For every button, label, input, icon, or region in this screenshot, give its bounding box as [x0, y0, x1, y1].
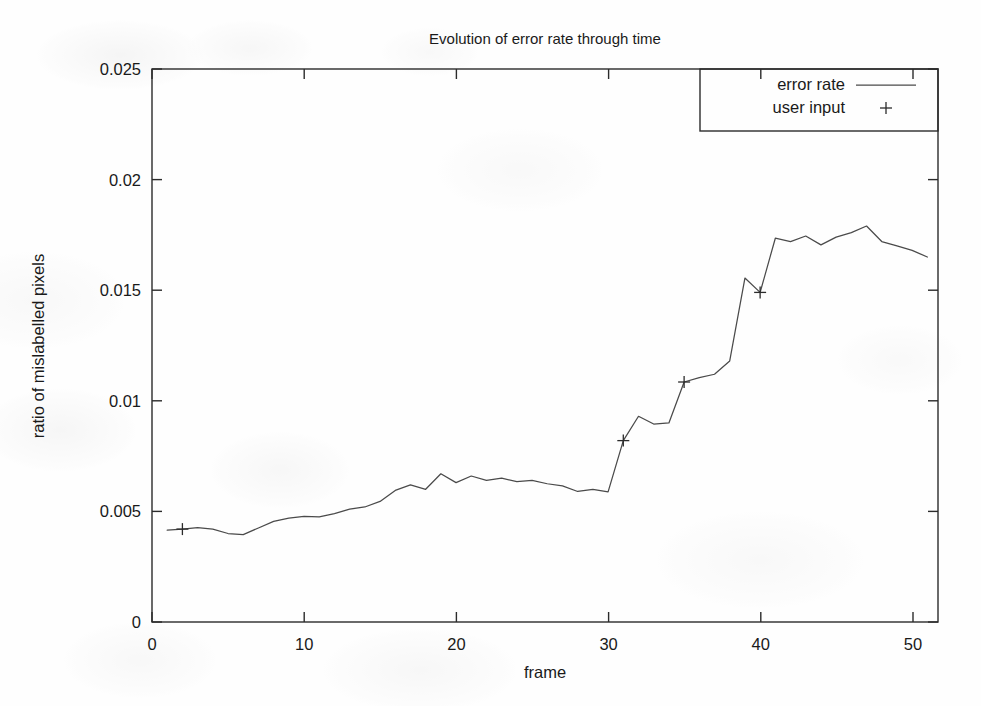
y-tick-label: 0.005: [100, 502, 141, 520]
legend-label-error-rate: error rate: [777, 75, 845, 93]
y-tick-label: 0.025: [100, 60, 141, 78]
chart-title: Evolution of error rate through time: [429, 30, 661, 47]
x-tick-label: 0: [147, 635, 156, 653]
error-rate-line-chart: 0 0.005 0.01 0.015 0.02 0.025 0 10 20 30…: [0, 0, 981, 706]
y-tick-label: 0.02: [109, 171, 141, 189]
y-axis-title: ratio of mislabelled pixels: [29, 254, 47, 438]
x-tick-labels: 0 10 20 30 40 50: [147, 635, 922, 653]
y-tick-label: 0.015: [100, 281, 141, 299]
user-input-marker: [678, 376, 690, 388]
user-input-marker: [176, 523, 188, 535]
y-tick-labels: 0 0.005 0.01 0.015 0.02 0.025: [100, 60, 141, 631]
x-axis-title: frame: [524, 663, 566, 681]
user-input-marker: [617, 435, 629, 447]
error-rate-line: [167, 226, 927, 535]
y-tick-label: 0: [132, 613, 141, 631]
legend-label-user-input: user input: [773, 98, 846, 116]
x-tick-label: 50: [904, 635, 922, 653]
plot-frame: [152, 69, 938, 622]
chart-legend: error rate user input: [700, 69, 938, 131]
chart-page: 0 0.005 0.01 0.015 0.02 0.025 0 10 20 30…: [0, 0, 981, 706]
legend-sample-plus-icon: [880, 102, 892, 114]
data-series-layer: [167, 226, 927, 535]
x-tick-label: 20: [447, 635, 465, 653]
y-tick-label: 0.01: [109, 392, 141, 410]
y-axis-ticks: [152, 69, 938, 622]
x-tick-label: 30: [599, 635, 617, 653]
x-tick-label: 10: [295, 635, 313, 653]
x-tick-label: 40: [752, 635, 770, 653]
x-axis-ticks: [152, 69, 913, 622]
